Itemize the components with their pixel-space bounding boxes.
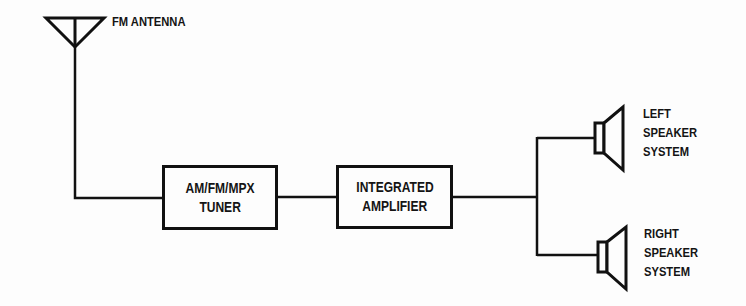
tuner-label-line-2: TUNER xyxy=(199,198,240,217)
tuner-label-line-1: AM/FM/MPX xyxy=(186,179,255,198)
left-speaker-label-line-1: LEFT xyxy=(643,104,697,123)
connection-wires xyxy=(0,0,746,306)
right-speaker-label-line-1: RIGHT xyxy=(644,224,698,243)
amplifier-block: INTEGRATED AMPLIFIER xyxy=(336,165,453,229)
hifi-block-diagram: FM ANTENNA AM/FM/MPX TUNER INTEGRATED AM… xyxy=(0,0,746,306)
right-speaker-label: RIGHT SPEAKER SYSTEM xyxy=(644,224,698,281)
tuner-block: AM/FM/MPX TUNER xyxy=(162,165,278,230)
amplifier-label-line-1: INTEGRATED xyxy=(356,178,433,197)
antenna-to-tuner-wire xyxy=(75,46,163,198)
right-speaker-label-line-3: SYSTEM xyxy=(644,262,698,281)
right-speaker-label-line-2: SPEAKER xyxy=(644,243,698,262)
amplifier-to-speakers-wire xyxy=(452,137,598,256)
speaker-icon xyxy=(595,107,623,170)
left-speaker-label-line-2: SPEAKER xyxy=(643,123,697,142)
left-speaker-label-line-3: SYSTEM xyxy=(643,142,697,161)
antenna-icon xyxy=(46,18,104,47)
speaker-icon xyxy=(598,227,626,289)
antenna-label: FM ANTENNA xyxy=(112,12,185,31)
antenna-label-text: FM ANTENNA xyxy=(112,14,185,29)
amplifier-label-line-2: AMPLIFIER xyxy=(362,197,427,216)
left-speaker-label: LEFT SPEAKER SYSTEM xyxy=(643,104,697,161)
